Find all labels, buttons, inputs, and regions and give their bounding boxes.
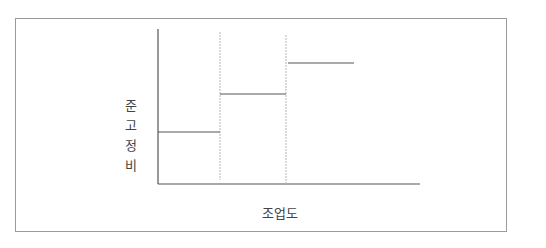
- y-axis-label-char: 비: [121, 156, 141, 176]
- y-axis-label: 준 고 정 비: [121, 96, 141, 176]
- x-axis-label: 조업도: [240, 203, 320, 222]
- y-axis-label-char: 정: [121, 136, 141, 156]
- y-axis-label-char: 준: [121, 96, 141, 116]
- y-axis-label-char: 고: [121, 116, 141, 136]
